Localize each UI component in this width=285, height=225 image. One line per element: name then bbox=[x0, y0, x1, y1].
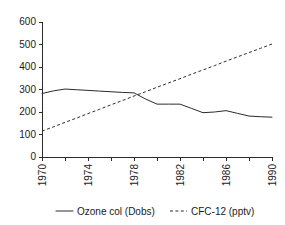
x-tick-label: 1978 bbox=[129, 164, 140, 187]
y-tick-label: 500 bbox=[19, 39, 36, 50]
x-tick-label: 1970 bbox=[37, 164, 48, 187]
y-tick-label: 300 bbox=[19, 84, 36, 95]
legend-label-1: Ozone col (Dobs) bbox=[77, 206, 155, 217]
y-tick-label: 200 bbox=[19, 106, 36, 117]
legend-label-2: CFC-12 (pptv) bbox=[191, 206, 254, 217]
line-chart: 0100200300400500600 19701974197819821986… bbox=[0, 0, 285, 225]
y-tick-label: 400 bbox=[19, 61, 36, 72]
y-tick-label: 0 bbox=[30, 151, 36, 162]
x-tick-label: 1982 bbox=[175, 164, 186, 187]
y-tick-label: 100 bbox=[19, 129, 36, 140]
x-tick-label: 1990 bbox=[267, 164, 278, 187]
x-tick-label: 1986 bbox=[221, 164, 232, 187]
x-tick-label: 1974 bbox=[83, 164, 94, 187]
y-tick-label: 600 bbox=[19, 16, 36, 27]
chart-background bbox=[0, 0, 285, 225]
chart-figure: 0100200300400500600 19701974197819821986… bbox=[0, 0, 285, 225]
